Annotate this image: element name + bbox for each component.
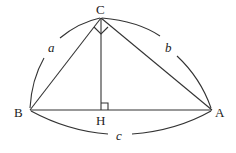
right-angle-marker-h [101, 103, 108, 110]
label-c-vertex: C [96, 2, 105, 17]
label-a-vertex: A [215, 105, 225, 120]
label-b-vertex: B [14, 105, 23, 120]
arc-a-upper [60, 18, 100, 38]
side-ca [101, 18, 212, 110]
label-side-c: c [116, 128, 122, 143]
arc-c-right [132, 111, 211, 134]
label-side-a: a [48, 40, 55, 55]
label-side-b: b [165, 40, 172, 55]
arc-b-upper [102, 18, 160, 36]
triangle-diagram: C B A H a b c [0, 0, 236, 153]
label-h-point: H [96, 113, 105, 128]
arc-b-lower [177, 56, 211, 108]
